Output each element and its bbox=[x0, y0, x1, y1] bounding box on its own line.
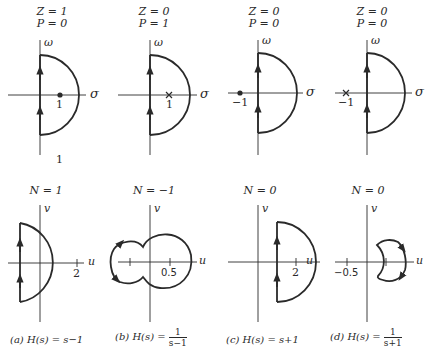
plots-svg bbox=[0, 0, 427, 362]
caption-c: (c) H(s) = s+1 bbox=[226, 334, 299, 345]
tick-label-c: 2 bbox=[292, 267, 299, 279]
u-axis-label-a: u bbox=[88, 256, 95, 268]
omega-axis-label-d: ω bbox=[371, 35, 380, 47]
marker-label-a: 1 bbox=[56, 99, 63, 111]
u-axis-label-d: u bbox=[416, 255, 423, 267]
u-axis-label-b: u bbox=[199, 255, 206, 267]
zero-marker-a bbox=[57, 92, 62, 97]
omega-axis-label-b: ω bbox=[154, 37, 163, 49]
caption-b-prefix: (b) H(s) = bbox=[115, 331, 166, 342]
nyquist-figure: Z = 1 P = 0 Z = 0 P = 1 Z = 0 P = 0 Z = … bbox=[0, 0, 427, 362]
caption-d-denominator: s+1 bbox=[384, 338, 402, 348]
zero-marker-c bbox=[237, 90, 242, 95]
v-axis-label-b: v bbox=[154, 203, 160, 215]
caption-a: (a) H(s) = s−1 bbox=[10, 334, 83, 345]
s-plane-a bbox=[8, 40, 86, 155]
omega-axis-label-c: ω bbox=[262, 35, 271, 47]
caption-d-prefix: (d) H(s) = bbox=[330, 331, 381, 342]
h-plane-b bbox=[111, 205, 197, 322]
caption-b-fraction: 1 s−1 bbox=[169, 327, 187, 348]
sigma-axis-label-b: σ bbox=[200, 88, 209, 100]
caption-d-fraction: 1 s+1 bbox=[384, 327, 402, 348]
sigma-axis-label-d: σ bbox=[415, 86, 424, 98]
h-plane-a bbox=[8, 205, 84, 322]
marker-label-d: −1 bbox=[338, 97, 354, 109]
h-plane-d bbox=[335, 205, 414, 322]
v-axis-label-a: v bbox=[44, 203, 50, 215]
extra-label-a: 1 bbox=[56, 154, 63, 166]
tick-label-b: 0.5 bbox=[161, 267, 177, 279]
s-plane-b bbox=[118, 40, 197, 155]
marker-label-c: −1 bbox=[232, 97, 248, 109]
caption-b-numerator: 1 bbox=[169, 327, 187, 338]
v-axis-label-d: v bbox=[371, 203, 377, 215]
caption-d: (d) H(s) = 1 s+1 bbox=[330, 327, 402, 348]
caption-d-numerator: 1 bbox=[384, 327, 402, 338]
v-axis-label-c: v bbox=[262, 203, 268, 215]
caption-b: (b) H(s) = 1 s−1 bbox=[115, 327, 187, 348]
omega-axis-label-a: ω bbox=[44, 37, 53, 49]
u-axis-label-c: u bbox=[306, 255, 313, 267]
sigma-axis-label-c: σ bbox=[306, 86, 315, 98]
caption-b-denominator: s−1 bbox=[169, 338, 187, 348]
tick-label-a: 2 bbox=[73, 268, 80, 280]
sigma-axis-label-a: σ bbox=[90, 88, 99, 100]
tick-label-d: −0.5 bbox=[334, 267, 358, 279]
marker-label-b: 1 bbox=[166, 99, 173, 111]
